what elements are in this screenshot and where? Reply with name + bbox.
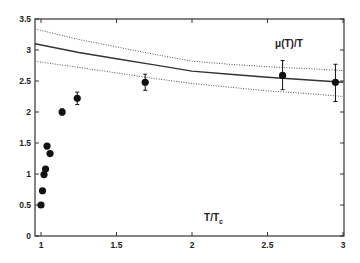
y-tick-label: 3.5 (19, 14, 31, 24)
data-point (74, 95, 81, 102)
data-point (59, 108, 66, 115)
data-point (332, 79, 339, 86)
y-tick-label: 0.5 (19, 200, 31, 210)
y-tick-label: 1.5 (19, 138, 31, 148)
plot-border (35, 19, 344, 236)
x-tick-label: 1.5 (111, 240, 123, 250)
y-tick-label: 0 (26, 231, 31, 241)
x-axis-label: T/Tc (204, 212, 223, 225)
data-point (142, 79, 149, 86)
band-curve (35, 29, 343, 71)
data-point (46, 150, 53, 157)
y-tick-label: 1 (26, 169, 31, 179)
data-point (43, 143, 50, 150)
curve-label: μ(T)/T (275, 38, 303, 49)
y-tick-label: 2 (26, 107, 31, 117)
data-point (37, 201, 44, 208)
x-tick-label: 3 (341, 240, 346, 250)
data-point (42, 165, 49, 172)
x-tick-label: 2.5 (262, 240, 274, 250)
chart: 00.511.522.533.5 11.522.53 μ(T)/T T/Tc (0, 0, 360, 263)
annotations: μ(T)/T T/Tc (204, 38, 303, 226)
data-points (37, 61, 339, 209)
x-tick-label: 2 (190, 240, 195, 250)
plot-frame (35, 19, 344, 236)
x-axis-label-subscript: c (219, 218, 223, 225)
x-axis-label-main: T/T (204, 212, 219, 223)
x-tick-label: 1 (39, 240, 44, 250)
y-tick-label: 2.5 (19, 76, 31, 86)
data-point (279, 72, 286, 79)
central-curve (35, 44, 343, 82)
data-point (39, 187, 46, 194)
y-tick-label: 3 (26, 45, 31, 55)
